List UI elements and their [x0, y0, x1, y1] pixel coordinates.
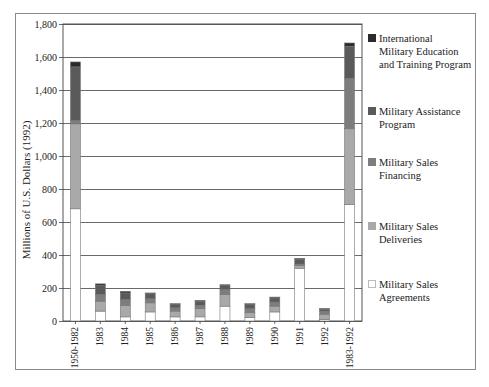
bar-segment — [70, 209, 80, 321]
legend-label: Military Sales Financing — [379, 156, 479, 182]
bar-segment — [170, 304, 180, 305]
bar-segment — [145, 299, 155, 303]
bar-segment — [195, 301, 205, 305]
bar-segment — [170, 305, 180, 308]
bar-segment — [320, 311, 330, 314]
bar-segment — [270, 302, 280, 306]
x-tick-label: 1986 — [170, 327, 180, 346]
plot-area — [63, 24, 362, 321]
bar-segment — [70, 121, 80, 124]
bar-segment — [295, 266, 305, 268]
bar-segment — [220, 295, 230, 307]
bar-segment — [345, 78, 355, 128]
legend-swatch-financing — [368, 158, 376, 166]
bar-segment — [245, 309, 255, 313]
bar-segment — [220, 285, 230, 286]
bar-segment — [270, 306, 280, 312]
bar-segment — [320, 314, 330, 319]
bar-segment — [120, 293, 130, 300]
bar-segment — [145, 303, 155, 312]
bar-segment — [70, 62, 80, 67]
x-tick-label: 1991 — [295, 327, 305, 346]
bar-segment — [95, 286, 105, 295]
bar-segment — [345, 205, 355, 321]
bar-segment — [120, 291, 130, 293]
x-tick-label: 1989 — [245, 327, 255, 346]
y-tick-label: 400 — [42, 250, 57, 261]
bar-segment — [345, 129, 355, 205]
bar-segment — [345, 46, 355, 78]
x-tick-label: 1985 — [145, 327, 155, 346]
bar-segment — [120, 300, 130, 306]
y-axis-label: Millions of U.S. Dollars (1992) — [18, 90, 34, 290]
legend-label: Military Sales Agreements — [379, 278, 479, 304]
bar-segment — [95, 301, 105, 311]
bar-segment — [170, 317, 180, 321]
bar-segment — [95, 295, 105, 302]
bar-segment — [170, 311, 180, 317]
bar-segment — [70, 67, 80, 121]
bar-segment — [70, 124, 80, 209]
bar-segment — [120, 305, 130, 317]
legend-swatch-imet — [368, 34, 376, 42]
bar-segment — [270, 298, 280, 302]
bar-segment — [270, 297, 280, 298]
x-tick-label: 1983 — [95, 327, 105, 346]
y-tick-label: 1,000 — [35, 151, 58, 162]
bar-segment — [195, 317, 205, 321]
bar-segment — [295, 259, 305, 264]
bar-segment — [195, 305, 205, 308]
y-tick-label: 200 — [42, 283, 57, 294]
legend-swatch-agreements — [368, 280, 376, 288]
x-tick-label: 1984 — [120, 327, 130, 346]
x-tick-label: 1950-1982 — [70, 327, 80, 368]
y-tick-label: 1,800 — [35, 19, 58, 30]
x-tick-label: 1987 — [195, 327, 205, 346]
bar-segment — [145, 294, 155, 299]
bar-segment — [295, 268, 305, 321]
bar-segment — [195, 300, 205, 301]
bar-segment — [220, 286, 230, 290]
bar-segment — [270, 312, 280, 321]
y-tick-label: 600 — [42, 217, 57, 228]
legend-swatch-map — [368, 107, 376, 115]
bar-segment — [295, 258, 305, 259]
bar-segment — [245, 304, 255, 305]
y-tick-label: 800 — [42, 184, 57, 195]
bar-segment — [120, 317, 130, 321]
bar-segment — [95, 311, 105, 321]
y-tick-label: 1,400 — [35, 85, 58, 96]
bar-segment — [220, 306, 230, 321]
bar-segment — [245, 305, 255, 309]
bar-segment — [345, 43, 355, 46]
bar-segment — [145, 312, 155, 321]
x-tick-label: 1990 — [270, 327, 280, 346]
x-tick-label: 1992 — [320, 327, 330, 346]
legend-label: Military Sales Deliveries — [379, 220, 479, 246]
x-tick-label: 1988 — [220, 327, 230, 346]
bar-segment — [220, 290, 230, 295]
x-tick-label: 1983-1992 — [345, 327, 355, 368]
legend-swatch-deliveries — [368, 222, 376, 230]
bar-segment — [145, 293, 155, 294]
legend-label: Military Assistance Program — [379, 105, 479, 131]
y-tick-label: 1,600 — [35, 52, 58, 63]
bar-segment — [95, 284, 105, 286]
bar-segment — [245, 313, 255, 318]
y-axis-label-text: Millions of U.S. Dollars (1992) — [20, 121, 32, 260]
y-tick-label: 1,200 — [35, 118, 58, 129]
legend-label: International Military Education and Tra… — [379, 32, 479, 71]
bar-segment — [245, 318, 255, 321]
bar-segment — [170, 308, 180, 311]
bar-segment — [195, 309, 205, 317]
y-tick-label: 0 — [52, 316, 57, 327]
